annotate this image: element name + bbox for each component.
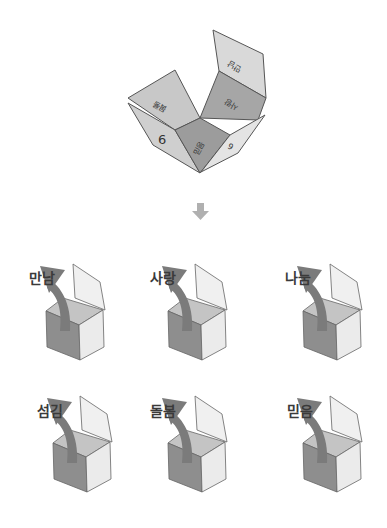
- diagram-canvas: 만남 사랑 돌봄 6 믿음 6 만남 사랑: [0, 0, 387, 528]
- down-arrow-icon: [192, 203, 209, 220]
- box-2: 사랑: [150, 264, 227, 360]
- box-label-4: 섬김: [37, 403, 63, 419]
- box-1: 만남: [29, 264, 105, 360]
- box-label-5: 돌봄: [150, 403, 176, 419]
- box-label-2: 사랑: [150, 270, 176, 286]
- box-label-6: 믿음: [287, 403, 313, 419]
- net-label-left-number: 6: [158, 132, 166, 147]
- box-3: 나눔: [285, 264, 362, 360]
- box-label-1: 만남: [29, 270, 55, 286]
- box-label-3: 나눔: [285, 270, 311, 286]
- box-4: 섬김: [37, 396, 112, 492]
- box-5: 돌봄: [150, 396, 227, 492]
- box-6: 믿음: [287, 396, 362, 492]
